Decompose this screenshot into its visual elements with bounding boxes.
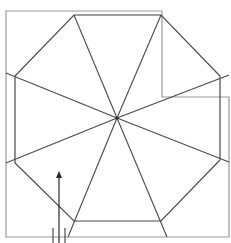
octagon-diagram [0, 0, 231, 243]
frame-outline [6, 11, 229, 237]
center-point [116, 117, 119, 120]
up-arrow [56, 171, 62, 243]
octagon-spokes [6, 15, 229, 237]
